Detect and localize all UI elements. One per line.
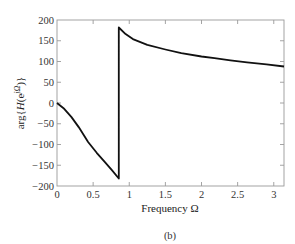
phase-line — [57, 28, 284, 179]
x-tick-label: 2 — [199, 189, 204, 200]
x-axis-label: Frequency Ω — [141, 202, 198, 214]
y-tick-label: 200 — [38, 15, 54, 26]
plot-frame — [57, 20, 284, 186]
x-tick-label: 0.5 — [87, 189, 100, 200]
y-tick-label: 50 — [44, 77, 55, 88]
y-tick-label: 150 — [38, 35, 54, 46]
phase-response-chart: 00.511.522.53 200150100500−50−100−150−20… — [0, 0, 295, 244]
x-tick-label: 1.5 — [159, 189, 172, 200]
x-tick-label: 0 — [54, 189, 59, 200]
y-tick-label: 100 — [38, 56, 54, 67]
figure-caption: (b) — [164, 230, 177, 242]
x-tick-label: 1 — [127, 189, 132, 200]
y-tick-label: −200 — [32, 181, 54, 192]
y-tick-label: −50 — [38, 118, 54, 129]
y-axis-ticks: 200150100500−50−100−150−200 — [32, 15, 284, 192]
x-tick-label: 3 — [271, 189, 276, 200]
y-tick-label: 0 — [49, 98, 54, 109]
data-series — [57, 28, 284, 179]
x-tick-label: 2.5 — [231, 189, 244, 200]
y-axis-label: arg{H(ejΩ)} — [13, 77, 27, 130]
y-tick-label: −150 — [32, 160, 54, 171]
y-tick-label: −100 — [32, 139, 54, 150]
x-axis-ticks: 00.511.522.53 — [54, 20, 276, 200]
